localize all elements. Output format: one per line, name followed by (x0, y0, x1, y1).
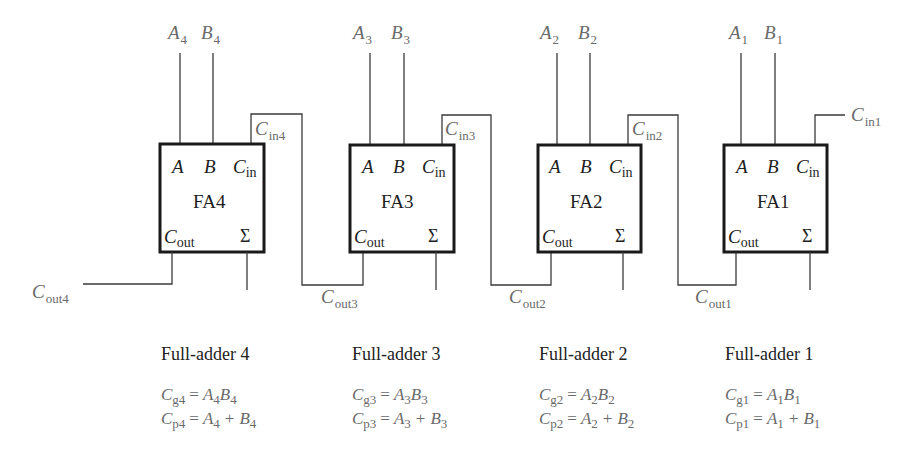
fa3-heading: Full-adder 3 (352, 344, 440, 364)
carry-in1-wire (815, 115, 845, 145)
input-b3-label: B3 (391, 22, 410, 47)
fa3-propagate-eq: Cp3=A3+B3 (352, 409, 447, 431)
full-adder-fa2: A2 B2 Cin2 A B Cin FA2 Cout Σ Cout2 (509, 22, 736, 311)
fa1-propagate-eq: Cp1=A1+B1 (725, 409, 820, 431)
fa4-heading: Full-adder 4 (161, 344, 249, 364)
fa3-pin-b: B (393, 156, 405, 177)
carry-in1-label: Cin1 (851, 104, 881, 129)
fa1-pin-sum: Σ (802, 226, 812, 246)
carry-wire-fa1-to-fa2 (628, 115, 736, 285)
fa1-heading: Full-adder 1 (725, 344, 813, 364)
carry-out2-label: Cout2 (509, 286, 546, 311)
fa2-propagate-eq: Cp2=A2+B2 (539, 409, 634, 431)
fa4-generate-eq: Cg4=A4B4 (161, 385, 237, 407)
fa4-pin-a: A (170, 156, 184, 177)
full-adder-fa1: A1 B1 Cin1 A B Cin FA1 Cout Σ Cout1 (695, 22, 881, 311)
full-adder-fa4: A4 B4 Cin4 A B Cin FA4 Cout Σ Cout4 (32, 22, 363, 306)
input-b4-label: B4 (201, 22, 221, 47)
fa2-pin-sum: Σ (615, 226, 625, 246)
equations-fa2: Full-adder 2 Cg2=A2B2 Cp2=A2+B2 (539, 344, 634, 431)
fa4-propagate-eq: Cp4=A4+B4 (161, 409, 257, 431)
carry-out1-label: Cout1 (695, 286, 732, 311)
carry-out3-label: Cout3 (321, 286, 358, 311)
ripple-carry-adder-diagram: A4 B4 Cin4 A B Cin FA4 Cout Σ Cout4 A3 B… (0, 0, 913, 460)
fa4-label: FA4 (193, 191, 226, 212)
fa1-label: FA1 (757, 191, 789, 212)
fa3-label: FA3 (381, 191, 413, 212)
fa1-generate-eq: Cg1=A1B1 (725, 385, 801, 407)
carry-out4-wire (83, 252, 172, 284)
fa1-pin-a: A (734, 156, 748, 177)
fa1-pin-b: B (767, 156, 779, 177)
equations-fa1: Full-adder 1 Cg1=A1B1 Cp1=A1+B1 (725, 344, 820, 431)
fa4-pin-b: B (204, 156, 216, 177)
fa2-pin-b: B (580, 156, 592, 177)
input-b1-label: B1 (764, 22, 783, 47)
input-b2-label: B2 (578, 22, 597, 47)
equations-fa3: Full-adder 3 Cg3=A3B3 Cp3=A3+B3 (352, 344, 447, 431)
carry-in4-label: Cin4 (255, 118, 286, 143)
input-a1-label: A1 (727, 22, 748, 47)
fa2-generate-eq: Cg2=A2B2 (539, 385, 615, 407)
carry-out4-label: Cout4 (32, 281, 69, 306)
fa2-label: FA2 (570, 191, 602, 212)
input-a2-label: A2 (538, 22, 559, 47)
fa2-pin-a: A (547, 156, 561, 177)
fa3-pin-a: A (360, 156, 374, 177)
input-a4-label: A4 (166, 22, 188, 47)
fa2-heading: Full-adder 2 (539, 344, 627, 364)
carry-in2-label: Cin2 (632, 118, 662, 143)
fa3-pin-sum: Σ (428, 226, 438, 246)
equations-fa4: Full-adder 4 Cg4=A4B4 Cp4=A4+B4 (161, 344, 257, 431)
input-a3-label: A3 (351, 22, 372, 47)
fa4-pin-sum: Σ (240, 226, 250, 246)
fa3-generate-eq: Cg3=A3B3 (352, 385, 428, 407)
full-adder-fa3: A3 B3 Cin3 A B Cin FA3 Cout Σ Cout3 (321, 22, 551, 311)
carry-in3-label: Cin3 (445, 118, 475, 143)
